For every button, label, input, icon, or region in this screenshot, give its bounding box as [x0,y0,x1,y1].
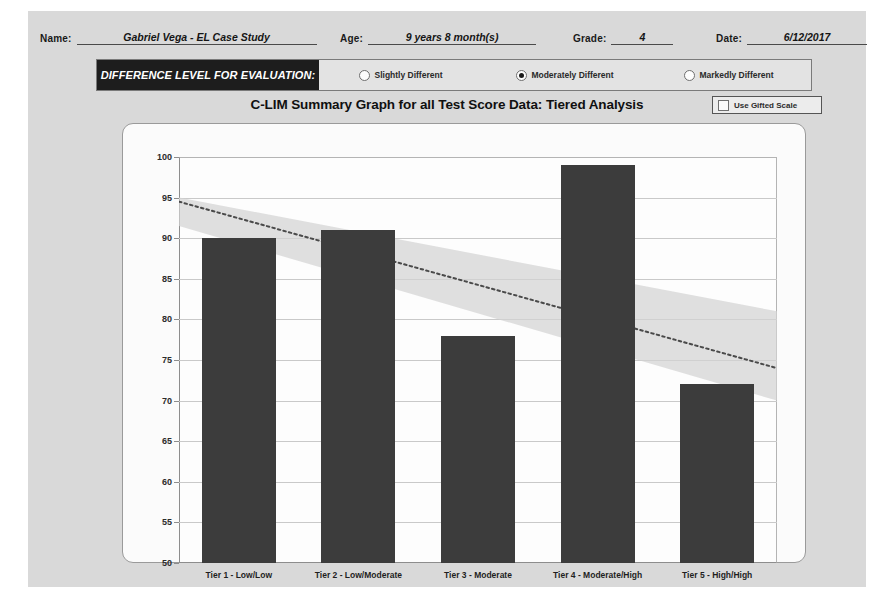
difference-level-panel: DIFFERENCE LEVEL FOR EVALUATION: Slightl… [96,59,812,91]
name-field[interactable]: Name: Gabriel Vega - EL Case Study [40,31,317,45]
y-axis-tick-mark [174,157,179,158]
y-axis-tick-label: 55 [162,517,172,527]
y-axis-tick-mark [174,198,179,199]
plot-area: 50556065707580859095100 Tier 1 - Low/Low… [179,157,777,563]
y-axis-tick-label: 50 [162,558,172,568]
radio-slightly-different[interactable]: Slightly Different [319,70,483,81]
radio-label: Moderately Different [531,70,613,80]
student-info-header: Name: Gabriel Vega - EL Case Study Age: … [28,31,866,57]
y-axis-tick-mark [174,238,179,239]
date-value[interactable]: 6/12/2017 [747,31,867,45]
age-field[interactable]: Age: 9 years 8 month(s) [340,31,536,45]
radio-label: Slightly Different [374,70,442,80]
gridline [179,198,777,199]
y-axis-tick-label: 80 [162,314,172,324]
grade-field[interactable]: Grade: 4 [573,31,673,45]
difference-level-options: Slightly Different Moderately Different … [319,60,811,90]
difference-level-title: DIFFERENCE LEVEL FOR EVALUATION: [97,60,319,90]
grade-label: Grade: [573,33,606,45]
bar-1 [202,238,276,563]
x-axis-label: Tier 4 - Moderate/High [553,570,642,580]
radio-label: Markedly Different [699,70,773,80]
y-axis-tick-label: 65 [162,436,172,446]
y-axis-tick-mark [174,522,179,523]
x-axis-label: Tier 3 - Moderate [444,570,512,580]
radio-markedly-different[interactable]: Markedly Different [647,70,811,81]
y-axis-tick-label: 75 [162,355,172,365]
y-axis-tick-mark [174,319,179,320]
radio-button-icon[interactable] [359,70,370,81]
y-axis-tick-mark [174,401,179,402]
date-field[interactable]: Date: 6/12/2017 [716,31,867,45]
use-gifted-scale-label: Use Gifted Scale [734,101,797,110]
chart-title-row: C-LIM Summary Graph for all Test Score D… [28,95,866,121]
x-axis-label: Tier 5 - High/High [682,570,752,580]
date-label: Date: [716,33,742,45]
worksheet-page: Name: Gabriel Vega - EL Case Study Age: … [28,11,866,587]
name-value[interactable]: Gabriel Vega - EL Case Study [77,31,317,45]
radio-button-icon[interactable] [684,70,695,81]
chart-panel: 50556065707580859095100 Tier 1 - Low/Low… [122,123,806,563]
grade-value[interactable]: 4 [611,31,673,45]
x-axis-label: Tier 1 - Low/Low [206,570,272,580]
bar-3 [441,336,515,563]
y-axis-tick-label: 85 [162,274,172,284]
y-axis-tick-mark [174,360,179,361]
y-axis-tick-label: 90 [162,233,172,243]
age-label: Age: [340,33,363,45]
y-axis-tick-mark [174,563,179,564]
use-gifted-scale-checkbox[interactable]: Use Gifted Scale [712,96,822,114]
radio-button-selected-icon[interactable] [516,70,527,81]
y-axis-tick-label: 70 [162,396,172,406]
y-axis-tick-mark [174,279,179,280]
name-label: Name: [40,33,72,45]
bar-4 [561,165,635,563]
checkbox-icon[interactable] [718,100,729,111]
y-axis-tick-mark [174,441,179,442]
x-axis-label: Tier 2 - Low/Moderate [315,570,402,580]
radio-moderately-different[interactable]: Moderately Different [483,70,647,81]
y-axis-tick-label: 100 [157,152,172,162]
age-value[interactable]: 9 years 8 month(s) [368,31,536,45]
bar-5 [680,384,754,563]
bar-2 [321,230,395,563]
y-axis-tick-label: 95 [162,193,172,203]
y-axis-tick-label: 60 [162,477,172,487]
y-axis-tick-mark [174,482,179,483]
